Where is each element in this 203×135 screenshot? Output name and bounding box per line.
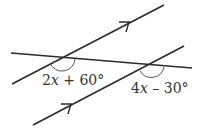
angle-arc-1: [50, 59, 75, 71]
angle-label-1: 2x + 60°: [42, 72, 104, 88]
parallel-lines-diagram: 2x + 60° 4x – 30°: [0, 0, 203, 135]
angle-arc-2: [140, 67, 164, 77]
angle-label-2: 4x – 30°: [131, 80, 189, 96]
